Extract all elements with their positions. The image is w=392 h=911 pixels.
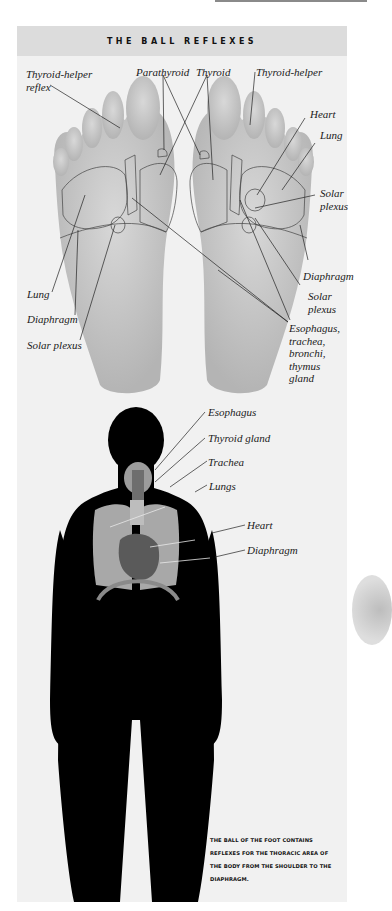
- label-line: plexus: [320, 200, 348, 213]
- label-line: gland: [289, 372, 340, 385]
- label-heart-body: Heart: [247, 519, 273, 532]
- label-diaphragm-body: Diaphragm: [247, 544, 298, 557]
- label-solar-plexus-right: Solar plexus: [320, 187, 348, 212]
- label-solar-plexus-right-2: Solar plexus: [308, 290, 336, 315]
- label-thyroid-helper-reflex: Thyroid-helper reflex: [26, 68, 92, 93]
- label-esophagus-group: Esophagus, trachea, bronchi, thymus glan…: [289, 322, 340, 385]
- caption: THE BALL OF THE FOOT CONTAINS REFLEXES F…: [210, 834, 350, 886]
- label-line: plexus: [308, 303, 336, 316]
- label-line: thymus: [289, 360, 340, 373]
- label-esophagus: Esophagus: [208, 406, 256, 419]
- caption-line: REFLEXES FOR THE THORACIC AREA OF: [210, 847, 350, 860]
- label-heart-foot: Heart: [310, 108, 336, 121]
- label-diaphragm-left: Diaphragm: [27, 313, 78, 326]
- caption-line: THE BODY FROM THE SHOULDER TO THE: [210, 860, 350, 873]
- label-line: Esophagus,: [289, 322, 340, 335]
- label-trachea: Trachea: [208, 456, 244, 469]
- label-lung-left: Lung: [27, 288, 50, 301]
- label-thyroid: Thyroid: [196, 66, 230, 79]
- label-thyroid-gland: Thyroid gland: [208, 432, 270, 445]
- label-line: Thyroid-helper: [26, 68, 92, 81]
- label-lungs: Lungs: [209, 480, 236, 493]
- caption-line: THE BALL OF THE FOOT CONTAINS: [210, 834, 350, 847]
- caption-line: DIAPHRAGM.: [210, 873, 350, 886]
- label-line: trachea,: [289, 335, 340, 348]
- label-line: Solar: [320, 187, 348, 200]
- label-diaphragm-right: Diaphragm: [303, 270, 354, 283]
- label-line: bronchi,: [289, 347, 340, 360]
- label-line: reflex: [26, 81, 92, 94]
- label-lung-right: Lung: [320, 129, 343, 142]
- label-line: Solar: [308, 290, 336, 303]
- page-edge-graphic: [352, 575, 392, 645]
- label-parathyroid: Parathyroid: [136, 66, 189, 79]
- label-thyroid-helper: Thyroid-helper: [256, 66, 322, 79]
- label-solar-plexus-left: Solar plexus: [27, 339, 82, 352]
